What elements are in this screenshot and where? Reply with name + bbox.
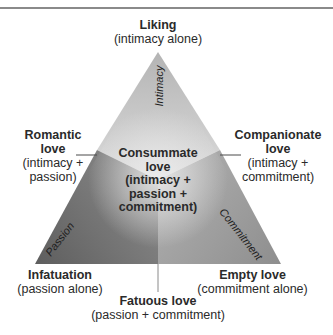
fatuous-subtitle: (passion + commitment) xyxy=(88,308,228,322)
consummate-line-4: passion + xyxy=(108,188,208,202)
companionate-sub-2: commitment) xyxy=(228,170,328,184)
romantic-sub-1: (intimacy + xyxy=(18,156,88,170)
fatuous-title: Fatuous love xyxy=(88,294,228,308)
romantic-title-1: Romantic xyxy=(18,128,88,142)
empty-love-title: Empty love xyxy=(195,268,310,282)
consummate-line-2: love xyxy=(108,161,208,175)
romantic-sub-2: passion) xyxy=(18,170,88,184)
empty-love-label: Empty love (commitment alone) xyxy=(195,268,310,296)
romantic-love-label: Romantic love (intimacy + passion) xyxy=(18,128,88,184)
consummate-line-5: commitment) xyxy=(108,201,208,215)
companionate-title-1: Companionate xyxy=(228,128,328,142)
consummate-love-label: Consummate love (intimacy + passion + co… xyxy=(108,147,208,215)
liking-subtitle: (intimacy alone) xyxy=(108,32,208,46)
liking-label: Liking (intimacy alone) xyxy=(108,18,208,46)
companionate-sub-1: (intimacy + xyxy=(228,156,328,170)
infatuation-title: Infatuation xyxy=(10,268,110,282)
romantic-title-2: love xyxy=(18,142,88,156)
fatuous-love-label: Fatuous love (passion + commitment) xyxy=(88,294,228,322)
companionate-title-2: love xyxy=(228,142,328,156)
liking-title: Liking xyxy=(108,18,208,32)
consummate-line-3: (intimacy + xyxy=(108,174,208,188)
companionate-love-label: Companionate love (intimacy + commitment… xyxy=(228,128,328,184)
consummate-line-1: Consummate xyxy=(108,147,208,161)
edge-label-intimacy: Intimacy xyxy=(153,61,165,111)
infatuation-label: Infatuation (passion alone) xyxy=(10,268,110,296)
